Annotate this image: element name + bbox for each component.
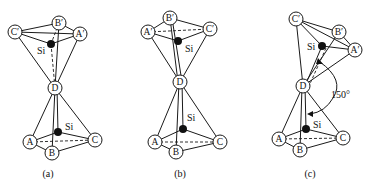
atom-c: C	[92, 135, 98, 145]
angle-label: 150°	[331, 89, 350, 100]
si-label-upper: Si	[307, 41, 316, 52]
atom-b-prime: B′	[335, 27, 343, 37]
atom-a-prime: A′	[144, 27, 153, 37]
atom-c: C	[217, 137, 223, 147]
atom-d: D	[300, 81, 307, 91]
atom-c-prime: C′	[206, 24, 214, 34]
atom-b: B	[49, 148, 55, 158]
atom-b-prime: B′	[166, 13, 174, 23]
si-atom-upper	[47, 40, 55, 48]
atom-b-prime: B′	[55, 18, 63, 28]
si-atom-lower	[302, 125, 310, 133]
panel-c: 150° Si Si C′ B′ A′ D A B C (c)	[272, 12, 362, 180]
atom-c-prime: C′	[292, 14, 300, 24]
si-label-upper: Si	[185, 43, 194, 54]
si-label-lower: Si	[313, 119, 322, 130]
atom-d: D	[177, 77, 184, 87]
atom-a: A	[152, 137, 159, 147]
caption-c: (c)	[304, 168, 315, 180]
caption-b: (b)	[174, 168, 186, 180]
atom-a: A	[276, 134, 283, 144]
atom-b: B	[173, 147, 179, 157]
atom-d: D	[52, 83, 59, 93]
panel-b: Si Si A′ B′ C′ D A B C (b)	[141, 11, 227, 180]
si-label-upper: Si	[37, 45, 46, 56]
arrowhead-lower-icon	[307, 111, 313, 117]
si-atom-lower	[179, 125, 187, 133]
si-label-lower: Si	[65, 121, 74, 132]
tetrahedra-diagram: Si Si C′ B′ A′ D A B C (a)	[0, 0, 374, 190]
si-label-lower: Si	[187, 112, 196, 123]
atom-a-prime: A′	[351, 45, 360, 55]
si-atom-upper	[174, 37, 182, 45]
si-atom-upper	[318, 42, 326, 50]
caption-a: (a)	[42, 168, 53, 180]
atom-a: A	[27, 137, 34, 147]
atom-c-prime: C′	[11, 27, 19, 37]
panel-a: Si Si C′ B′ A′ D A B C (a)	[8, 16, 102, 180]
atom-b: B	[297, 145, 303, 155]
atom-a-prime: A′	[76, 29, 85, 39]
atom-c: C	[340, 133, 346, 143]
si-atom-lower	[54, 128, 62, 136]
